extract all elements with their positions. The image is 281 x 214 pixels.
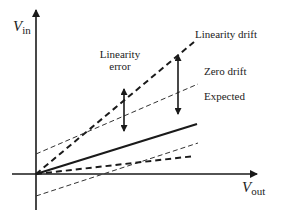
label-linearity-error-2: error bbox=[109, 60, 131, 72]
lower-linearity-drift-line bbox=[36, 156, 195, 174]
y-axis-label: Vin bbox=[13, 18, 31, 36]
expected-line bbox=[36, 124, 197, 174]
error-diagram: Vin Vout Linearity drift Zero drift Expe… bbox=[0, 0, 281, 214]
x-axis-label: Vout bbox=[242, 179, 265, 197]
label-linearity-error-1: Linearity bbox=[100, 48, 141, 60]
zero-drift-line bbox=[36, 84, 198, 154]
label-zero-drift: Zero drift bbox=[204, 65, 246, 77]
label-linearity-drift: Linearity drift bbox=[195, 28, 257, 40]
label-expected: Expected bbox=[204, 90, 245, 102]
lower-zero-drift-line bbox=[36, 143, 198, 196]
